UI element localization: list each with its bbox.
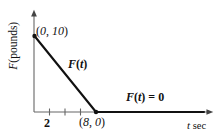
x-axis-label: t sec (187, 120, 206, 132)
y-axis-label: F(pounds) (8, 10, 20, 82)
zero-label-equals: = (145, 90, 158, 104)
curve-label-close-paren: ) (83, 57, 87, 71)
curve-label-ft: F(t) (68, 58, 87, 70)
data-point-8-0 (94, 110, 98, 114)
y-axis-label-unit: (pounds) (7, 22, 19, 63)
chart-plot-area (0, 0, 221, 137)
point-end-close-paren: ) (101, 115, 105, 129)
curve-label-ft-equals-zero: F(t) = 0 (126, 91, 164, 103)
y-axis-label-variable: F (7, 63, 19, 70)
curve-ft-ramp (35, 36, 97, 112)
zero-label-value: 0 (158, 90, 164, 104)
x-axis-label-unit-text: sec (193, 120, 206, 131)
force-vs-time-chart: F(pounds) (0, 10) F(t) F(t) = 0 (8, 0) t… (0, 0, 221, 137)
x-tick-label-2: 2 (44, 117, 50, 129)
curve-label-variable: F (68, 57, 76, 71)
zero-label-variable: F (126, 90, 134, 104)
point-start-close-paren: ) (64, 24, 68, 38)
point-label-end: (8, 0) (79, 116, 105, 128)
point-label-start: (0, 10) (36, 25, 68, 37)
point-start-y: 10 (52, 24, 64, 38)
